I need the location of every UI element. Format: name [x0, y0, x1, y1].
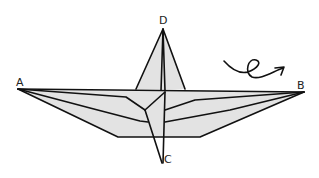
label-c: C: [164, 153, 172, 166]
top-point-flap: [136, 29, 185, 91]
label-a: A: [16, 76, 24, 89]
origami-diagram: D A B C: [0, 0, 319, 178]
label-b: B: [297, 79, 305, 92]
wings-body: [18, 89, 304, 163]
label-d: D: [159, 14, 167, 27]
turn-over-arrow-icon: [224, 60, 284, 78]
